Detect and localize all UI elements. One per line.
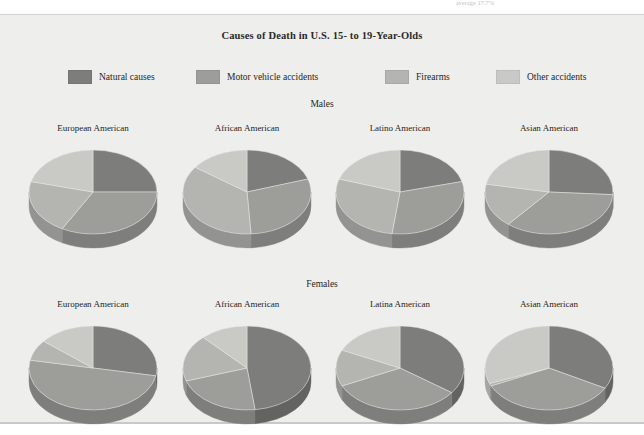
pie-label-females-latina-american: Latina American (325, 299, 475, 309)
pie-label-males-asian-american: Asian American (474, 123, 624, 133)
pie-chart-males-african-american (179, 140, 315, 258)
pie-row-females: European American African American Latin… (0, 299, 644, 435)
pie-label-males-latino-american: Latino American (325, 123, 475, 133)
section-heading-females: Females (0, 279, 644, 289)
legend-label-other-accidents: Other accidents (527, 72, 586, 82)
legend-item-firearms: Firearms (385, 68, 450, 86)
pie-cell-females-european-american: European American (18, 299, 168, 435)
pie-chart-males-latino-american (332, 140, 468, 258)
section-heading-males: Males (0, 99, 644, 109)
pie-label-females-asian-american: Asian American (474, 299, 624, 309)
pie-cell-males-latino-american: Latino American (325, 123, 475, 263)
pie-chart-females-african-american (179, 316, 315, 434)
legend-swatch-motor-vehicle-accidents (196, 70, 220, 84)
pie-label-females-african-american: African American (172, 299, 322, 309)
legend-label-firearms: Firearms (416, 72, 450, 82)
pie-cell-females-asian-american: Asian American (474, 299, 624, 435)
pie-chart-males-asian-american (481, 140, 617, 258)
figure-title: Causes of Death in U.S. 15- to 19-Year-O… (0, 30, 644, 41)
legend: Natural causes Motor vehicle accidents F… (0, 68, 644, 88)
clipped-page-text: average 17.7% (410, 0, 540, 13)
pie-label-males-european-american: European American (18, 123, 168, 133)
pie-chart-females-latina-american (332, 316, 468, 434)
pie-cell-females-latina-american: Latina American (325, 299, 475, 435)
pie-chart-males-european-american (25, 140, 161, 258)
legend-swatch-other-accidents (496, 70, 520, 84)
legend-swatch-firearms (385, 70, 409, 84)
legend-label-natural-causes: Natural causes (99, 72, 155, 82)
legend-item-natural-causes: Natural causes (68, 68, 155, 86)
legend-item-motor-vehicle-accidents: Motor vehicle accidents (196, 68, 318, 86)
pie-row-males: European American African American Latin… (0, 123, 644, 263)
pie-cell-males-european-american: European American (18, 123, 168, 263)
pie-cell-males-asian-american: Asian American (474, 123, 624, 263)
pie-chart-females-european-american (25, 316, 161, 434)
pie-chart-females-asian-american (481, 316, 617, 434)
pie-cell-females-african-american: African American (172, 299, 322, 435)
legend-label-motor-vehicle-accidents: Motor vehicle accidents (227, 72, 318, 82)
pie-label-males-african-american: African American (172, 123, 322, 133)
pie-label-females-european-american: European American (18, 299, 168, 309)
legend-swatch-natural-causes (68, 70, 92, 84)
pie-cell-males-african-american: African American (172, 123, 322, 263)
figure-panel: Causes of Death in U.S. 15- to 19-Year-O… (0, 14, 644, 424)
legend-item-other-accidents: Other accidents (496, 68, 586, 86)
